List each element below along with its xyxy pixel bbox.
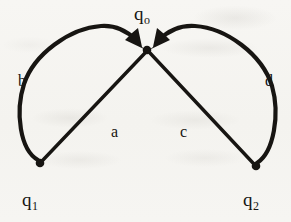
node-label-q1-base: q (22, 189, 32, 210)
node-label-q0: qo (134, 4, 150, 23)
edge-label-d: d (265, 73, 273, 89)
edge-d-path (159, 26, 276, 163)
node-label-q0-base: q (134, 3, 144, 24)
node-label-q1-subscript: 1 (32, 199, 38, 213)
edge-label-c: c (180, 124, 187, 140)
edge-label-b: b (18, 73, 26, 89)
node-label-q2: q2 (243, 190, 259, 209)
node-label-q0-subscript: o (144, 13, 150, 27)
edge-label-a: a (111, 124, 118, 140)
node-q2-dot[interactable] (252, 162, 261, 171)
edge-c-path (150, 53, 253, 163)
diagram-canvas: qo q1 q2 a b c d (0, 0, 291, 222)
node-label-q2-base: q (243, 189, 253, 210)
node-label-q2-subscript: 2 (253, 199, 259, 213)
edge-a-path (43, 53, 145, 160)
node-label-q1: q1 (22, 190, 38, 209)
edge-b-path (20, 26, 136, 160)
node-q0-dot[interactable] (143, 46, 152, 55)
node-q1-dot[interactable] (36, 159, 45, 168)
